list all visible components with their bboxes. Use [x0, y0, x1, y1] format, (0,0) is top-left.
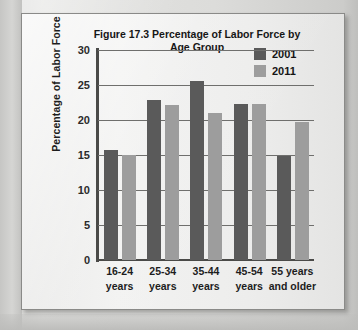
bar-group [184, 50, 227, 260]
bar-2001-45-54-years [234, 104, 248, 260]
y-axis-tick-labels: 051015202530 [58, 50, 90, 260]
page-right-edge [344, 0, 358, 330]
bar-2011-25-34-years [165, 105, 179, 260]
bar-2001-35-44-years [190, 81, 204, 260]
bar-2011-45-54-years [252, 104, 266, 260]
bar-group [271, 50, 314, 260]
x-axis-tick-labels: 16-24years25-34years35-44years45-54years… [98, 264, 320, 308]
page-spine-shadow [0, 0, 22, 330]
y-tick-label-30: 30 [78, 44, 90, 56]
bar-2001-16-24-years [104, 150, 118, 260]
x-tick-label-line: 55 years [263, 264, 322, 279]
bar-2011-55-years-and-older [295, 122, 309, 260]
chart-title-line-1: Figure 17.3 Percentage of Labor Force [94, 28, 285, 40]
bar-2001-55-years-and-older [277, 156, 291, 260]
y-tick-label-5: 5 [84, 219, 90, 231]
y-tick-label-25: 25 [78, 79, 90, 91]
figure-container: Figure 17.3 Percentage of Labor Force by… [21, 13, 345, 310]
bar-2011-35-44-years [208, 113, 222, 260]
bar-group [98, 50, 141, 260]
bar-2001-25-34-years [147, 100, 161, 260]
y-tick-label-15: 15 [78, 149, 90, 161]
plot-area [98, 50, 314, 260]
bar-group [228, 50, 271, 260]
x-tick-label: 55 yearsand older [263, 264, 322, 293]
page-bottom-edge [0, 314, 358, 330]
bar-group [141, 50, 184, 260]
y-tick-label-20: 20 [78, 114, 90, 126]
y-tick-label-10: 10 [78, 184, 90, 196]
bar-2011-16-24-years [122, 155, 136, 260]
x-tick-label-line: and older [263, 279, 322, 294]
